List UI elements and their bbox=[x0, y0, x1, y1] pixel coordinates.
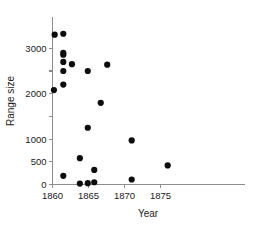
data-point bbox=[60, 31, 66, 37]
data-point bbox=[85, 180, 91, 186]
x-axis-title: Year bbox=[138, 208, 159, 219]
x-tick-label: 1870 bbox=[114, 190, 135, 201]
data-point bbox=[52, 32, 58, 38]
plot-area: 0500100020003000 1860186518701875 Year R… bbox=[0, 0, 253, 225]
y-tick-label: 3000 bbox=[25, 43, 46, 54]
data-point bbox=[69, 61, 75, 67]
data-point bbox=[165, 162, 171, 168]
x-axis-ticks: 1860186518701875 bbox=[42, 185, 171, 201]
y-axis-title: Range size bbox=[5, 76, 16, 126]
y-tick-label: 0 bbox=[41, 179, 46, 190]
y-tick-label: 500 bbox=[31, 156, 47, 167]
data-point bbox=[98, 100, 104, 106]
data-point bbox=[129, 137, 135, 143]
y-axis-ticks: 0500100020003000 bbox=[25, 43, 52, 190]
data-point bbox=[85, 125, 91, 131]
data-point bbox=[60, 59, 66, 65]
x-tick-label: 1875 bbox=[150, 190, 171, 201]
data-point bbox=[104, 62, 110, 68]
data-point bbox=[91, 179, 97, 185]
y-tick-label: 2000 bbox=[25, 88, 46, 99]
data-point bbox=[60, 52, 66, 58]
data-points-layer bbox=[51, 31, 171, 187]
data-point bbox=[77, 155, 83, 161]
x-tick-label: 1865 bbox=[78, 190, 99, 201]
data-point bbox=[91, 167, 97, 173]
data-point bbox=[77, 180, 83, 186]
data-point bbox=[129, 176, 135, 182]
data-point bbox=[60, 173, 66, 179]
x-tick-label: 1860 bbox=[42, 190, 63, 201]
scatter-chart: 0500100020003000 1860186518701875 Year R… bbox=[0, 0, 253, 225]
data-point bbox=[60, 68, 66, 74]
data-point bbox=[85, 68, 91, 74]
data-point bbox=[51, 87, 57, 93]
data-point bbox=[60, 82, 66, 88]
y-tick-label: 1000 bbox=[25, 134, 46, 145]
